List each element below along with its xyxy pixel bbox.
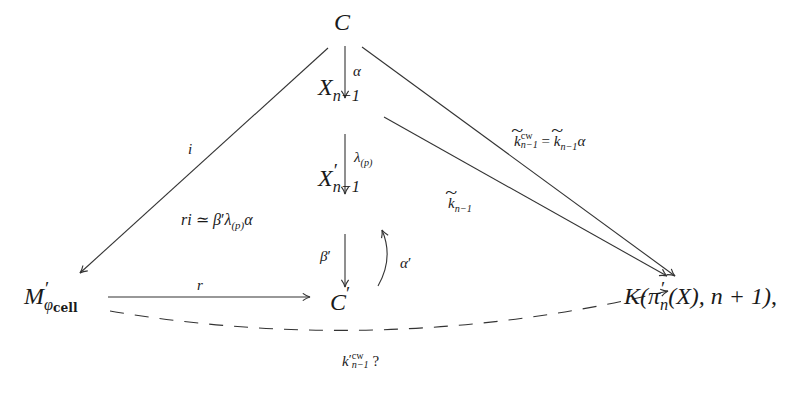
node-C: C [334, 10, 350, 34]
arrow-k-tilde-cw [362, 47, 675, 276]
node-K-comma: , [771, 283, 777, 309]
label-kpcw-k: k [342, 353, 349, 369]
node-X-prime-n-1: X′n−1 [318, 166, 360, 195]
label-k-tilde-n-1: kn−1 [448, 196, 472, 214]
label-k-tilde-sub: n−1 [455, 203, 472, 214]
label-alpha-prime: α′ [400, 256, 411, 271]
label-k-prime-cw-question: k′cwn−1 ? [342, 351, 379, 369]
label-lambda-p: λ(p) [354, 150, 372, 168]
node-M-prime: ′ [45, 279, 49, 298]
label-alpha-prime-text: α [400, 255, 408, 271]
label-kcw-sub: n−1 [521, 140, 538, 149]
label-lambda-sub: (p) [361, 157, 373, 168]
label-kcw-k: k [514, 134, 521, 149]
label-alpha-prime-mark: ′ [408, 255, 411, 271]
label-alpha-text: α [353, 63, 361, 79]
ann-simeq: ≃ [192, 211, 213, 228]
label-kpcw-question: ? [369, 353, 379, 369]
label-k-tilde-cw: kcwn−1 = kn−1α [514, 131, 585, 152]
ann-alpha: α [244, 211, 252, 228]
label-alpha: α [353, 64, 361, 79]
node-C-symbol: C [334, 9, 350, 35]
label-i-text: i [188, 141, 192, 157]
node-K-prime: ′ [661, 279, 665, 298]
node-M-symbol: M [24, 283, 44, 309]
node-Xp-symbol: X [318, 165, 333, 191]
arrow-alpha-prime [378, 230, 387, 286]
node-X-symbol: X [318, 74, 333, 100]
label-k-tilde-text: k [448, 196, 455, 211]
ann-sub: (p) [232, 219, 245, 231]
arrow-i [80, 48, 328, 273]
node-M-prime-phi-cell: M′φcell [24, 284, 78, 314]
label-kcw-rhs-k: k [554, 134, 561, 149]
node-K-head: K(π [624, 283, 660, 309]
label-kpcw-sub: n−1 [352, 360, 369, 369]
node-X-subscript: n−1 [333, 86, 360, 105]
node-Cp-symbol: C [330, 289, 346, 315]
label-r-text: r [197, 277, 203, 293]
node-Cp-prime: ′ [346, 283, 350, 304]
label-beta-prime-mark: ′ [327, 248, 330, 264]
label-kcw-rhs-sub: n−1 [560, 141, 577, 152]
label-r: r [197, 278, 203, 293]
annotation-ri-simeq: ri ≃ β′λ(p)α [181, 212, 253, 231]
node-C-prime: C′ [330, 284, 350, 314]
commutative-diagram: C Xn−1 X′n−1 C′ M′φcell K(π′n(X), n + 1)… [0, 0, 810, 394]
arrows-layer [0, 0, 810, 394]
node-Xp-prime: ′ [334, 161, 338, 180]
ann-lambda: λ [225, 211, 232, 228]
node-K: K(π′n(X), n + 1), [624, 284, 777, 313]
ann-beta: β [213, 211, 221, 228]
label-beta-prime: β′ [320, 249, 331, 264]
label-kcw-rhs-alpha: α [577, 133, 585, 149]
label-i: i [188, 142, 192, 157]
node-K-tail: (X), n + 1) [668, 283, 771, 309]
node-X-n-1: Xn−1 [318, 75, 360, 104]
node-M-sub-cell: cell [53, 301, 78, 315]
